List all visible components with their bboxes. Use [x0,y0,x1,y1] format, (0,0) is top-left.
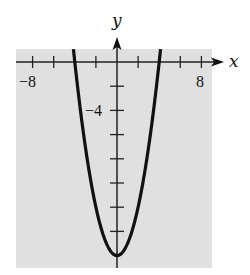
x-tick-label-8: 8 [196,73,204,90]
y-axis-label: y [111,10,122,30]
y-tick-label-neg4: −4 [85,102,102,119]
x-tick-label-neg8: −8 [19,73,36,90]
x-axis-label: x [229,51,239,71]
parabola-chart: x y −8 8 −4 [0,0,250,275]
